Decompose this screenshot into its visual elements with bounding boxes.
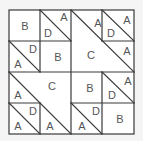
region-label: C	[87, 49, 95, 61]
region-label: D	[29, 105, 37, 117]
region-label: A	[46, 120, 54, 132]
region-label: B	[86, 82, 93, 94]
region-label: A	[123, 45, 131, 57]
region-label: A	[124, 75, 132, 87]
region-label: D	[92, 105, 100, 117]
region-label: D	[44, 27, 52, 39]
region-label: A	[14, 120, 22, 132]
region-label: B	[21, 20, 28, 32]
region-label: B	[116, 113, 123, 125]
region-label: A	[60, 11, 68, 23]
puzzle-svg: B D A A D A A C A D B C A B D A A D A A …	[0, 0, 143, 141]
region-label: A	[123, 14, 131, 26]
region-label: A	[78, 120, 86, 132]
region-label: A	[14, 58, 22, 70]
region-label: A	[14, 89, 22, 101]
region-label: D	[107, 27, 115, 39]
region-label: D	[108, 89, 116, 101]
region-label: B	[54, 51, 61, 63]
region-label: D	[29, 43, 37, 55]
region-label: A	[94, 17, 102, 29]
region-label: C	[48, 80, 56, 92]
tangram-puzzle-diagram: B D A A D A A C A D B C A B D A A D A A …	[0, 0, 143, 141]
